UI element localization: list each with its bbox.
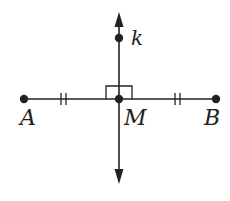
- point-b: [212, 95, 220, 103]
- perpendicular-bisector-diagram: k A M B: [0, 0, 230, 201]
- point-a: [20, 95, 28, 103]
- label-m: M: [123, 105, 147, 130]
- point-m: [115, 95, 123, 103]
- arrow-down-icon: [115, 169, 124, 184]
- label-b: B: [203, 105, 220, 130]
- arrow-up-icon: [115, 12, 124, 27]
- label-k: k: [131, 26, 143, 50]
- point-k: [115, 34, 123, 42]
- label-a: A: [18, 105, 36, 130]
